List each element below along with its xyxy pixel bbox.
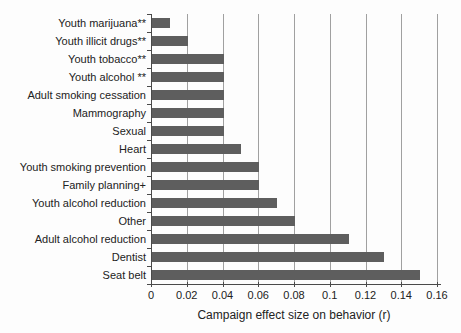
- y-axis-tick: [147, 284, 151, 285]
- y-axis-tick: [147, 158, 151, 159]
- x-axis-tick: [258, 282, 259, 287]
- x-axis-tick: [151, 282, 152, 287]
- y-axis-tick: [147, 104, 151, 105]
- x-axis-tick: [401, 282, 402, 287]
- bar: [152, 234, 349, 244]
- x-tick-label: 0.08: [283, 289, 304, 301]
- x-tick-label: 0.04: [212, 289, 233, 301]
- bar: [152, 198, 277, 208]
- x-axis-line: [151, 284, 441, 285]
- bar: [152, 36, 188, 46]
- y-axis-tick: [147, 32, 151, 33]
- category-label: Youth tobacco**: [0, 53, 146, 65]
- bar: [152, 270, 420, 280]
- bar: [152, 108, 224, 118]
- x-tick-label: 0.14: [391, 289, 412, 301]
- y-axis-tick: [147, 266, 151, 267]
- category-label: Youth illicit drugs**: [0, 35, 146, 47]
- y-axis-tick: [147, 212, 151, 213]
- bar: [152, 162, 259, 172]
- y-axis-tick: [147, 230, 151, 231]
- category-label: Seat belt: [0, 269, 146, 281]
- x-axis-tick: [294, 282, 295, 287]
- x-axis-title: Campaign effect size on behavior (r): [151, 308, 437, 322]
- y-axis-tick: [147, 140, 151, 141]
- x-tick-label: 0.06: [248, 289, 269, 301]
- x-tick-label: 0.02: [176, 289, 197, 301]
- category-label: Heart: [0, 143, 146, 155]
- category-label: Youth alcohol reduction: [0, 197, 146, 209]
- bar: [152, 144, 241, 154]
- plot-area: [151, 14, 437, 284]
- x-axis-tick: [187, 282, 188, 287]
- y-axis-tick: [147, 122, 151, 123]
- x-tick-label: 0.1: [322, 289, 337, 301]
- y-axis-tick: [147, 50, 151, 51]
- bar: [152, 90, 224, 100]
- x-axis-tick: [330, 282, 331, 287]
- x-axis-tick: [366, 282, 367, 287]
- category-label: Dentist: [0, 251, 146, 263]
- bar: [152, 180, 259, 190]
- x-tick-label: 0: [148, 289, 154, 301]
- y-axis-tick: [147, 86, 151, 87]
- category-label: Sexual: [0, 125, 146, 137]
- category-label: Mammography: [0, 107, 146, 119]
- gridline: [401, 14, 402, 284]
- y-axis-tick: [147, 14, 151, 15]
- category-label: Adult alcohol reduction: [0, 233, 146, 245]
- y-axis-tick: [147, 248, 151, 249]
- bar: [152, 18, 170, 28]
- y-axis-line: [151, 14, 152, 284]
- gridline: [366, 14, 367, 284]
- x-tick-label: 0.12: [355, 289, 376, 301]
- category-label: Youth alcohol **: [0, 71, 146, 83]
- bar: [152, 126, 224, 136]
- bar: [152, 72, 224, 82]
- x-axis-tick: [437, 282, 438, 287]
- y-axis-tick: [147, 68, 151, 69]
- bar: [152, 54, 224, 64]
- x-tick-label: 0.16: [426, 289, 447, 301]
- gridline: [437, 14, 438, 284]
- bar: [152, 216, 295, 226]
- x-axis-tick: [223, 282, 224, 287]
- y-axis-tick: [147, 176, 151, 177]
- category-label: Family planning+: [0, 179, 146, 191]
- category-label: Youth marijuana**: [0, 17, 146, 29]
- category-label: Other: [0, 215, 146, 227]
- bar-chart-figure: Campaign effect size on behavior (r) 00.…: [0, 0, 461, 333]
- y-axis-tick: [147, 194, 151, 195]
- category-label: Youth smoking prevention: [0, 161, 146, 173]
- category-label: Adult smoking cessation: [0, 89, 146, 101]
- bar: [152, 252, 384, 262]
